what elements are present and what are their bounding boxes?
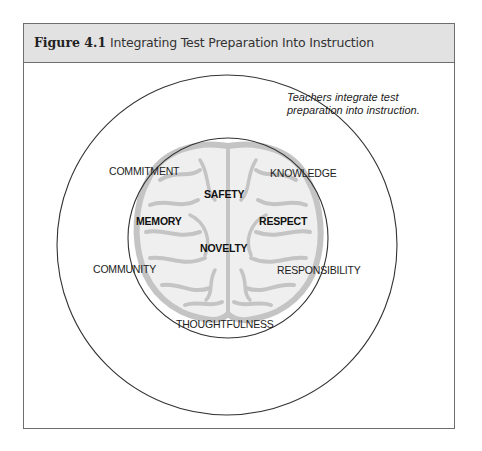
core-value-memory: MEMORY [136, 215, 182, 227]
ring-value-community: COMMUNITY [93, 263, 156, 275]
ring-value-knowledge: KNOWLEDGE [270, 167, 336, 179]
ring-value-commitment: COMMITMENT [109, 165, 179, 177]
core-value-respect: RESPECT [259, 215, 307, 227]
ring-value-thoughtfulness: THOUGHTFULNESS [176, 318, 274, 330]
core-value-safety: SAFETY [204, 188, 244, 200]
note-line-1: Teachers integrate test [287, 91, 447, 104]
outer-circle-note: Teachers integrate test preparation into… [287, 91, 447, 117]
concentric-diagram [0, 0, 482, 451]
core-value-novelty: NOVELTY [200, 242, 247, 254]
ring-value-responsibility: RESPONSIBILITY [277, 264, 361, 276]
note-line-2: preparation into instruction. [287, 104, 447, 117]
